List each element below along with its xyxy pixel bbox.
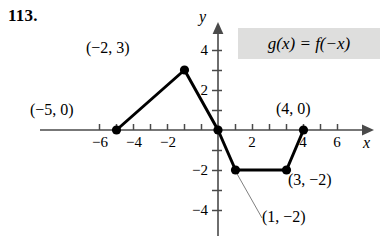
data-point-markers: [112, 65, 308, 174]
leader-line-1-neg2: [236, 172, 262, 218]
graph-curve: [117, 70, 304, 170]
label-3-neg2: (3, −2): [288, 171, 332, 189]
label-4-0: (4, 0): [276, 100, 311, 118]
y-ticklabel-neg4: −4: [178, 202, 208, 219]
x-ticklabel-neg6: −6: [84, 134, 116, 151]
figure-container: 113.: [0, 0, 389, 243]
x-ticklabel-neg4: −4: [118, 134, 150, 151]
x-ticklabel-2: 2: [240, 134, 264, 151]
y-ticklabel-neg2: −2: [178, 162, 208, 179]
label-neg5-0: (−5, 0): [30, 101, 74, 119]
x-ticklabel-neg2: −2: [152, 134, 184, 151]
marker-1-neg2: [231, 165, 240, 174]
label-1-neg2: (1, −2): [262, 208, 306, 226]
x-axis-name: x: [363, 134, 370, 152]
y-ticklabel-4: 4: [186, 42, 208, 59]
legend-box: g(x) = f(−x): [238, 28, 380, 59]
x-ticklabel-4: 4: [291, 134, 315, 151]
y-axis-name: y: [199, 8, 206, 26]
marker-neg2-3: [180, 65, 189, 74]
y-ticklabel-2: 2: [186, 82, 208, 99]
legend-equation: g(x) = f(−x): [238, 28, 380, 59]
marker-0-0: [213, 125, 222, 134]
x-ticklabel-6: 6: [325, 134, 349, 151]
label-neg2-3: (−2, 3): [86, 39, 130, 57]
